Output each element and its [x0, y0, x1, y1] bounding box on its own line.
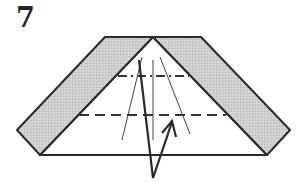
origami-diagram [0, 0, 304, 182]
